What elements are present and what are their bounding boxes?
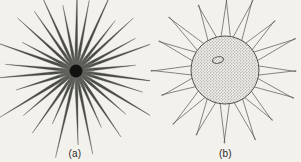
- spine: [198, 5, 217, 42]
- spine: [220, 102, 230, 143]
- spine: [162, 77, 197, 95]
- ray: [17, 18, 76, 72]
- panel-a-drawing: [0, 0, 150, 162]
- spine: [232, 0, 253, 42]
- figure-panel-b: (b): [150, 0, 301, 162]
- stippled-cell-body: [191, 36, 259, 104]
- panel-b-drawing: [150, 0, 301, 162]
- figure-panel-a: (a): [0, 0, 150, 162]
- panel-b-caption: (b): [150, 148, 301, 159]
- spine: [257, 66, 296, 76]
- spine: [196, 97, 216, 135]
- spine: [151, 66, 193, 76]
- dark-central-core: [70, 65, 83, 78]
- figure-root: (a) (b): [0, 0, 301, 162]
- spine: [253, 78, 294, 99]
- panel-a-caption: (a): [0, 148, 150, 159]
- spine: [252, 38, 295, 61]
- spine: [221, 0, 231, 38]
